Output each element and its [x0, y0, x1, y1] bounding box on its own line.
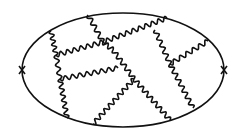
photon-line — [60, 66, 118, 81]
insertion-crosses — [19, 66, 227, 74]
photon-line — [58, 79, 69, 118]
photon-line — [54, 55, 62, 79]
feynman-diagram — [0, 0, 244, 136]
photon-line — [170, 40, 208, 65]
photon-line — [87, 15, 104, 42]
photon-line — [169, 64, 194, 108]
diagram-svg — [0, 0, 244, 136]
fermion-loop — [22, 13, 224, 127]
photon-line — [154, 30, 172, 64]
photon-line — [133, 79, 170, 120]
photon-line — [112, 50, 135, 79]
photon-line — [56, 40, 103, 56]
photon-line — [49, 31, 58, 55]
photon-lines — [49, 15, 208, 124]
photon-line — [93, 79, 134, 125]
